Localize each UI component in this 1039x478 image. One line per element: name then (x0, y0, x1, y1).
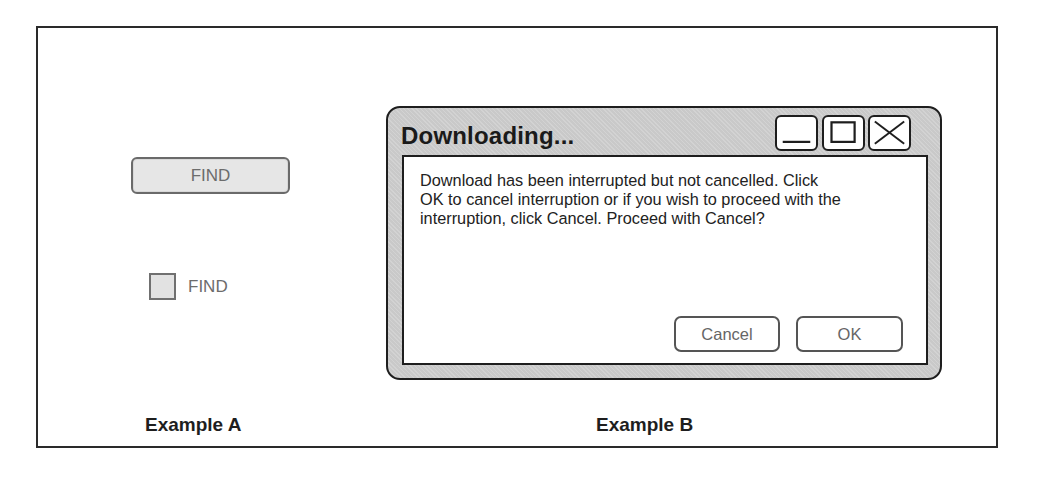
maximize-icon (824, 117, 863, 149)
cancel-button-label: Cancel (701, 325, 752, 344)
dialog-message-line: Download has been interrupted but not ca… (420, 171, 920, 190)
ok-button-label: OK (838, 325, 862, 344)
cancel-button[interactable]: Cancel (674, 316, 780, 352)
find-checkbox-row[interactable]: FIND (149, 273, 228, 300)
caption-example-b: Example B (596, 414, 693, 436)
ok-button[interactable]: OK (796, 316, 903, 352)
find-button-label: FIND (191, 166, 231, 186)
caption-example-a: Example A (145, 414, 241, 436)
close-icon (870, 117, 909, 149)
find-checkbox-label: FIND (188, 277, 228, 297)
minimize-button[interactable] (775, 115, 818, 151)
dialog-message-line: interruption, click Cancel. Proceed with… (420, 209, 920, 228)
download-dialog: Downloading... Download has been interru… (386, 106, 942, 380)
find-button[interactable]: FIND (131, 157, 290, 194)
close-button[interactable] (868, 115, 911, 151)
dialog-message-line: OK to cancel interruption or if you wish… (420, 190, 920, 209)
dialog-message: Download has been interrupted but not ca… (420, 171, 920, 228)
dialog-body: Download has been interrupted but not ca… (402, 155, 928, 365)
find-checkbox[interactable] (149, 273, 176, 300)
dialog-title: Downloading... (401, 122, 574, 150)
minimize-icon (777, 117, 816, 149)
maximize-button[interactable] (822, 115, 865, 151)
